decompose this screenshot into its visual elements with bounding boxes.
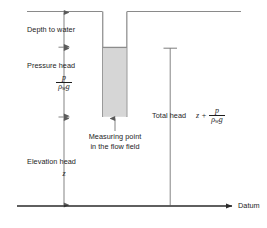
fraction-pressure-head: p ρwg <box>56 74 72 92</box>
label-measuring-point-line1: Measuring point <box>76 133 154 141</box>
total-denominator-gravity: g <box>219 115 223 124</box>
label-pressure-head: Pressure head <box>27 62 75 70</box>
water-column <box>103 47 126 116</box>
total-head-denominator: ρwg <box>209 115 225 125</box>
total-head-numerator: p <box>209 107 225 115</box>
fraction-total-head: p ρwg <box>209 107 225 125</box>
diagram-artwork <box>0 0 267 228</box>
diagram-canvas: Depth to water Pressure head p ρwg Eleva… <box>0 0 267 228</box>
equation-pressure-head: p ρwg <box>44 74 84 92</box>
label-measuring-point-line2: in the flow field <box>76 143 154 151</box>
denominator-gravity: g <box>66 82 70 91</box>
symbol-elevation-head: z <box>48 170 80 179</box>
label-total-head: Total head <box>152 112 186 120</box>
equation-total-head: z + p ρwg <box>196 107 225 125</box>
total-head-prefix: z + <box>196 111 207 120</box>
fraction-numerator: p <box>56 74 72 82</box>
label-datum: Datum <box>238 202 260 210</box>
fraction-denominator: ρwg <box>56 82 72 92</box>
label-depth-to-water: Depth to water <box>27 26 75 34</box>
label-elevation-head: Elevation head <box>27 158 76 166</box>
